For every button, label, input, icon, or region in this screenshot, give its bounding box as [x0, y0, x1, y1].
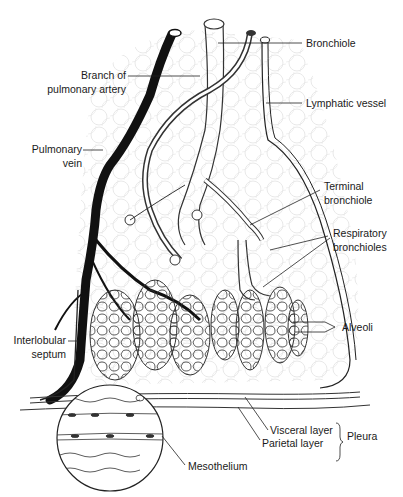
label-pulmonary-vein-line1: Pulmonary	[20, 143, 82, 155]
label-respiratory-bronchioles-line2: bronchioles	[333, 241, 387, 253]
label-terminal-bronchiole-line1: Terminal	[324, 180, 364, 192]
label-lymphatic-vessel: Lymphatic vessel	[306, 97, 386, 109]
label-alveoli: Alveoli	[342, 321, 373, 333]
lung-lobule-illustration: Branch of pulmonary artery Pulmonary vei…	[0, 0, 403, 497]
label-pulmonary-vein-line2: vein	[20, 157, 82, 169]
label-branch-of-pulmonary-artery-line1: Branch of	[70, 69, 126, 81]
label-pleura: Pleura	[347, 430, 377, 442]
label-visceral-layer: Visceral layer	[270, 424, 333, 436]
label-respiratory-bronchioles-line1: Respiratory	[333, 227, 387, 239]
label-mesothelium: Mesothelium	[188, 460, 248, 472]
label-branch-of-pulmonary-artery-line2: pulmonary artery	[40, 83, 126, 95]
label-interlobular-septum-line1: Interlobular	[0, 334, 66, 346]
mesothelium-magnified-view	[55, 385, 165, 491]
label-terminal-bronchiole-line2: bronchiole	[324, 194, 372, 206]
label-interlobular-septum-line2: septum	[0, 348, 66, 360]
label-bronchiole: Bronchiole	[306, 37, 356, 49]
label-parietal-layer: Parietal layer	[262, 437, 323, 449]
